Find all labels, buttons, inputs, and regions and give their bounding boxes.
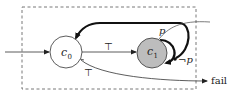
- state-c0-subscript: 0: [68, 53, 72, 61]
- fail-label: fail: [211, 75, 227, 86]
- state-c0: c 0: [50, 36, 82, 68]
- state-c1: c 1: [137, 38, 167, 68]
- automaton-diagram: c 0 c 1 ⊤ ⊤ p ¬p fail: [0, 0, 233, 104]
- state-c0-label: c: [61, 46, 67, 59]
- edge-label-top: ⊤: [104, 41, 113, 52]
- state-c1-label: c: [147, 45, 153, 58]
- edge-label-p: p: [159, 25, 166, 36]
- loop-junction-dot: [173, 57, 177, 61]
- edge-label-not-p: ¬p: [178, 54, 193, 65]
- edge-label-bottom: ⊤: [84, 67, 93, 78]
- state-c1-subscript: 1: [154, 52, 158, 60]
